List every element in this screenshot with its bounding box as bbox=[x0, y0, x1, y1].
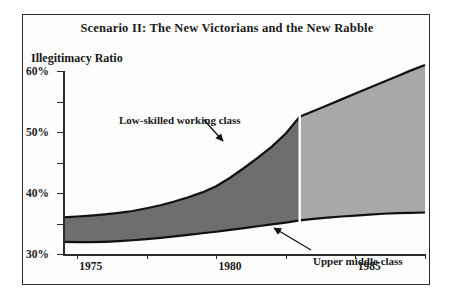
x-tick-label: 1980 bbox=[219, 260, 242, 272]
x-tick: 1990 bbox=[286, 254, 287, 259]
y-tick: 10% bbox=[57, 224, 63, 225]
y-tick: 60% bbox=[57, 71, 63, 72]
chart-frame: Scenario II: The New Victorians and the … bbox=[22, 14, 430, 285]
x-tick-label: 1975 bbox=[79, 260, 102, 272]
y-tick-label: 50% bbox=[26, 126, 49, 138]
x-tick: 1980 bbox=[147, 254, 148, 259]
plot-area: 0%10%20%30%40%50%60% 1975198019851990199… bbox=[63, 71, 431, 256]
annotation-upper-middle-class: Upper middle class bbox=[313, 255, 403, 267]
y-tick: 50% bbox=[57, 102, 63, 103]
y-axis-line bbox=[63, 71, 65, 256]
y-tick: 0% bbox=[57, 254, 63, 255]
area-series-svg bbox=[63, 71, 431, 261]
x-tick: 2000 bbox=[425, 254, 426, 259]
area-band-historical bbox=[63, 117, 300, 242]
area-band-projected bbox=[300, 65, 425, 221]
y-tick: 20% bbox=[57, 193, 63, 194]
annotation-low-skilled-working-class: Low-skilled working class bbox=[119, 114, 241, 126]
y-tick-label: 40% bbox=[26, 187, 49, 199]
x-tick: 1985 bbox=[216, 254, 217, 259]
x-tick: 1975 bbox=[77, 254, 78, 259]
chart-title: Scenario II: The New Victorians and the … bbox=[23, 21, 431, 36]
y-tick: 40% bbox=[57, 132, 63, 133]
y-tick-label: 30% bbox=[26, 248, 49, 260]
y-tick: 30% bbox=[57, 163, 63, 164]
y-tick-label: 60% bbox=[26, 65, 49, 77]
y-axis-label: Illegitimacy Ratio bbox=[31, 51, 123, 66]
